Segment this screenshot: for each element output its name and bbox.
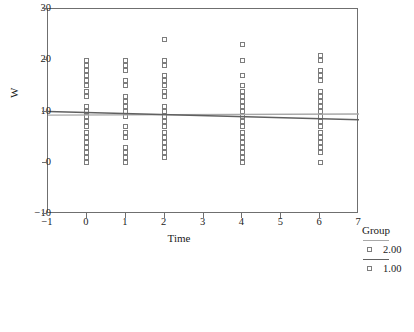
legend-item-label: 2.00 xyxy=(383,244,401,255)
y-axis-title: W xyxy=(8,88,20,98)
x-tick-label: 5 xyxy=(270,217,290,228)
y-tick-mark xyxy=(42,111,47,112)
x-tick-mark xyxy=(280,213,281,218)
x-axis-title: Time xyxy=(0,232,358,244)
legend-marker-icon xyxy=(367,266,372,271)
legend-item-label: 1.00 xyxy=(383,263,401,274)
x-tick-mark xyxy=(241,213,242,218)
x-tick-label: −1 xyxy=(37,217,57,228)
x-tick-mark xyxy=(125,213,126,218)
legend: Group 2.001.00 xyxy=(362,224,414,275)
scatter-chart-figure: W −100102030 −101234567 Time Group 2.001… xyxy=(0,0,414,332)
x-tick-label: 4 xyxy=(231,217,251,228)
y-tick-mark xyxy=(42,162,47,163)
x-tick-mark xyxy=(86,213,87,218)
x-tick-label: 0 xyxy=(76,217,96,228)
y-tick-mark xyxy=(42,59,47,60)
x-tick-label: 1 xyxy=(115,217,135,228)
regression-lines xyxy=(47,8,358,213)
x-tick-mark xyxy=(203,213,204,218)
y-tick-mark xyxy=(42,8,47,9)
legend-entries: 2.001.00 xyxy=(362,240,414,275)
x-tick-mark xyxy=(319,213,320,218)
legend-line-swatch xyxy=(363,259,389,260)
legend-marker-icon xyxy=(367,247,372,252)
x-tick-mark xyxy=(164,213,165,218)
legend-line-swatch xyxy=(363,240,389,241)
legend-item[interactable]: 1.00 xyxy=(362,262,414,275)
legend-title: Group xyxy=(362,224,414,236)
x-tick-label: 2 xyxy=(154,217,174,228)
y-tick-mark xyxy=(42,213,47,214)
legend-item[interactable]: 2.00 xyxy=(362,243,414,256)
plot-area xyxy=(47,8,358,213)
x-tick-label: 3 xyxy=(193,217,213,228)
x-tick-label: 6 xyxy=(309,217,329,228)
